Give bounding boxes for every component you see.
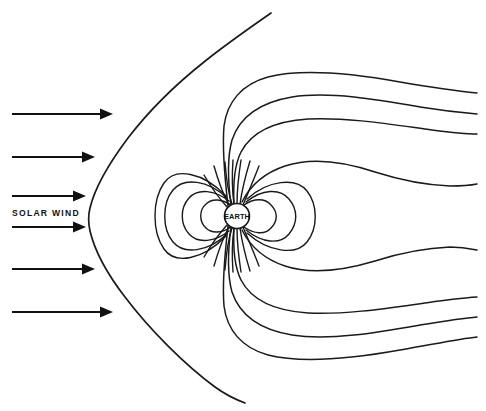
earth-label: EARTH (224, 212, 250, 221)
tail-line-north-4 (242, 161, 477, 202)
nightside-loop-2 (246, 191, 296, 241)
arrow-head-icon (82, 264, 95, 275)
arrow-head-icon (82, 152, 95, 163)
solar-wind-arrow-2 (12, 152, 95, 163)
magnetosphere-diagram: SOLAR WIND (0, 0, 486, 411)
dayside-dipole-loops (155, 174, 231, 259)
arrow-head-icon (73, 191, 86, 202)
tail-line-south-3 (229, 227, 478, 337)
nightside-dipole-loops (244, 182, 315, 250)
tail-line-south-4 (223, 226, 477, 359)
dayside-loop-3 (165, 182, 227, 250)
tail-line-north-2 (229, 95, 478, 205)
earth-group: EARTH (224, 204, 250, 229)
solar-wind-arrow-3 (12, 191, 86, 202)
solar-wind-arrow-4 (12, 222, 86, 233)
solar-wind-arrow-1 (12, 109, 113, 120)
dayside-loop-4 (155, 174, 226, 259)
arrow-head-icon (73, 222, 86, 233)
magnetotail-south-lines (223, 226, 477, 359)
solar-wind-arrow-5 (12, 264, 95, 275)
diagram-canvas: SOLAR WIND (0, 0, 486, 411)
arrow-head-icon (100, 307, 113, 318)
solar-wind-arrow-6 (12, 307, 113, 318)
dayside-loop-2 (182, 192, 229, 241)
solar-wind-label: SOLAR WIND (12, 208, 80, 218)
magnetotail-north-lines (223, 73, 477, 206)
arrow-head-icon (100, 109, 113, 120)
tail-line-south-1 (242, 230, 477, 271)
